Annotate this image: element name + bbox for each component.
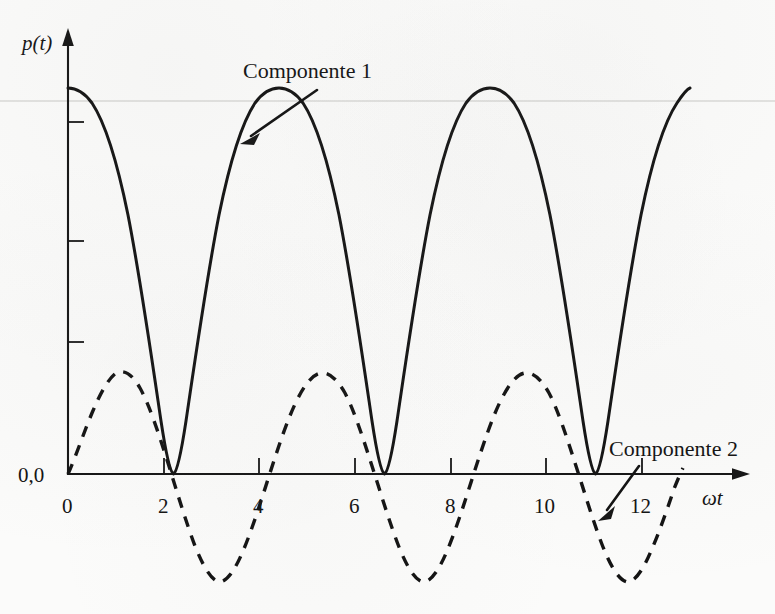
x-axis-ticks bbox=[164, 458, 642, 474]
origin-label: 0,0 bbox=[18, 463, 44, 487]
x-tick-label-10: 10 bbox=[534, 494, 555, 518]
x-tick-label-12: 12 bbox=[630, 494, 651, 518]
series-componente-2-curve bbox=[68, 372, 683, 582]
x-axis-tick-labels: 0 2 4 6 8 10 12 bbox=[62, 494, 651, 518]
annotation-componente-1-label: Componente 1 bbox=[243, 58, 372, 83]
x-tick-label-4: 4 bbox=[253, 494, 264, 518]
y-axis-ticks bbox=[68, 122, 84, 342]
power-components-chart: Componente 1 Componente 2 p(t) ωt 0,0 0 … bbox=[0, 0, 775, 614]
annotation-componente-2-label: Componente 2 bbox=[609, 436, 738, 461]
annotation-componente-1-arrowhead bbox=[240, 133, 260, 145]
x-axis-title: ωt bbox=[702, 486, 724, 510]
y-axis-title: p(t) bbox=[20, 31, 52, 55]
x-tick-label-2: 2 bbox=[158, 494, 169, 518]
x-axis-arrowhead bbox=[732, 468, 750, 480]
x-tick-label-6: 6 bbox=[349, 494, 360, 518]
y-axis-arrowhead bbox=[62, 28, 74, 46]
figure-container: Componente 1 Componente 2 p(t) ωt 0,0 0 … bbox=[0, 0, 775, 614]
series-componente-1-curve bbox=[68, 88, 690, 474]
axes-group bbox=[62, 28, 750, 480]
x-tick-label-0: 0 bbox=[62, 494, 73, 518]
x-tick-label-8: 8 bbox=[445, 494, 456, 518]
annotation-componente-2-arrowhead bbox=[598, 506, 615, 521]
